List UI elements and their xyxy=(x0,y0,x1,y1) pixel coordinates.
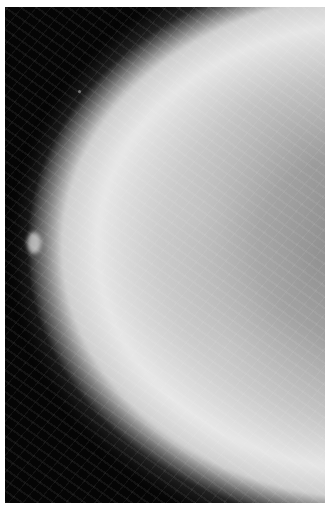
artifact-speck xyxy=(78,90,81,93)
nipple-region xyxy=(27,232,41,254)
mammogram-image xyxy=(5,7,325,503)
